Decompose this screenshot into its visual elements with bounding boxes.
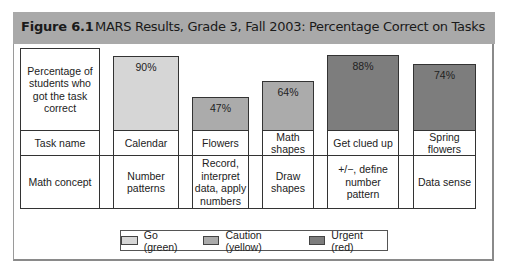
row-label-math-concept: Math concept: [20, 155, 100, 209]
column-gap: [178, 155, 193, 209]
column-gap: [248, 155, 263, 209]
concept-get-clued-up: +/−, define number pattern: [327, 155, 399, 209]
task-name-get-clued-up: Get clued up: [327, 130, 399, 156]
bar-flowers: 47%: [192, 97, 249, 131]
concept-calendar: Number patterns: [113, 155, 179, 209]
figure-header: Figure 6.1 MARS Results, Grade 3, Fall 2…: [13, 12, 495, 44]
row-label-task-name: Task name: [20, 130, 100, 156]
concept-flowers: Record, interpret data, apply numbers: [192, 155, 249, 209]
bar-get-clued-up: 88%: [327, 55, 399, 131]
bar-label: 74%: [414, 69, 475, 81]
legend-label: Go (green): [144, 229, 194, 253]
bar-label: 90%: [114, 61, 178, 73]
legend-label: Caution (yellow): [225, 229, 299, 253]
task-name-flowers: Flowers: [192, 130, 249, 156]
task-name-spring-flowers: Spring flowers: [413, 130, 476, 156]
task-name-math-shapes: Math shapes: [262, 130, 314, 156]
bar-label: 47%: [193, 102, 248, 114]
legend-item-go: Go (green): [121, 229, 194, 253]
legend-item-caution: Caution (yellow): [203, 229, 300, 253]
figure-title: MARS Results, Grade 3, Fall 2003: Percen…: [95, 19, 485, 34]
column-gap: [99, 155, 114, 209]
column-gap: [313, 155, 328, 209]
figure-number: Figure 6.1: [21, 19, 94, 34]
bar-math-shapes: 64%: [262, 81, 314, 131]
column-gap: [398, 155, 414, 209]
bar-calendar: 90%: [113, 56, 179, 131]
legend-label: Urgent (red): [331, 229, 387, 253]
legend: Go (green) Caution (yellow) Urgent (red): [120, 230, 388, 251]
bar-label: 88%: [328, 60, 398, 72]
swatch-urgent-icon: [309, 236, 326, 245]
concept-spring-flowers: Data sense: [413, 155, 476, 209]
swatch-caution-icon: [203, 236, 220, 245]
task-name-calendar: Calendar: [113, 130, 179, 156]
row-label-percentage: Percentage of students who got the task …: [20, 48, 100, 131]
bar-label: 64%: [263, 86, 313, 98]
bar-spring-flowers: 74%: [413, 64, 476, 131]
concept-math-shapes: Draw shapes: [262, 155, 314, 209]
swatch-go-icon: [121, 236, 138, 245]
legend-item-urgent: Urgent (red): [309, 229, 387, 253]
